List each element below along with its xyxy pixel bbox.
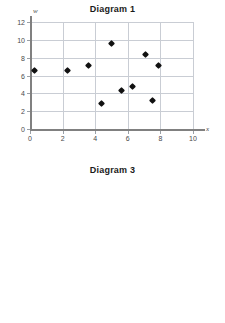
gridline-vertical [128,22,129,129]
y-tick [27,58,30,59]
data-point [64,67,71,74]
gridline-vertical [63,22,64,129]
data-point [149,97,156,104]
gridline-horizontal [30,93,193,94]
scatter-plots-page: Diagram 1 0246810024681012xw Diagram 3 0… [0,0,225,323]
x-tick-label: 4 [93,135,97,142]
chart-diagram-1: Diagram 1 0246810024681012xw [0,0,225,161]
y-tick-label: 0 [10,126,25,133]
gridline-vertical [193,22,194,129]
plot-area-diagram-1: 0246810024681012xw [30,22,193,129]
x-tick [128,131,129,134]
x-axis-label: x [206,125,209,133]
y-tick-label: 12 [10,19,25,26]
data-point [108,40,115,47]
y-tick-label: 4 [10,90,25,97]
gridline-horizontal [30,22,193,23]
x-tick [63,131,64,134]
y-tick [27,129,30,130]
data-point [129,83,136,90]
x-axis [30,129,205,131]
gridline-vertical [160,22,161,129]
y-tick [27,93,30,94]
data-point [155,62,162,69]
y-tick [27,22,30,23]
chart-diagram-3: Diagram 3 0246810120123456789xw [0,161,225,322]
gridline-horizontal [30,111,193,112]
x-tick-label: 10 [189,135,197,142]
gridline-horizontal [30,58,193,59]
gridline-vertical [95,22,96,129]
x-tick [95,131,96,134]
x-tick-label: 2 [61,135,65,142]
x-tick [30,131,31,134]
gridline-horizontal [30,76,193,77]
y-tick [27,111,30,112]
y-tick [27,40,30,41]
data-point [142,51,149,58]
x-tick-label: 8 [158,135,162,142]
x-tick [160,131,161,134]
chart-title-diagram-3: Diagram 3 [0,165,225,175]
y-tick-label: 6 [10,72,25,79]
y-axis-label: w [33,7,38,15]
x-tick-label: 0 [28,135,32,142]
x-tick-label: 6 [126,135,130,142]
data-point [118,87,125,94]
data-point [98,100,105,107]
data-point [31,67,38,74]
y-tick-label: 8 [10,54,25,61]
data-point [85,62,92,69]
y-tick [27,76,30,77]
y-tick-label: 2 [10,108,25,115]
x-tick [193,131,194,134]
y-tick-label: 10 [10,36,25,43]
